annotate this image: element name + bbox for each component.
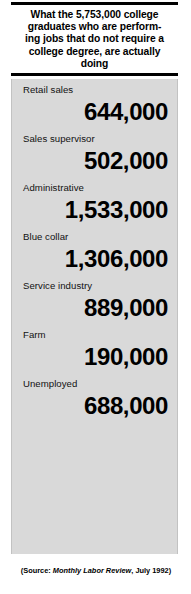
- table-row: Unemployed 688,000: [12, 378, 177, 427]
- row-value-farm: 190,000: [23, 341, 168, 378]
- headline-line-1: What the 5,753,000 college: [12, 9, 177, 21]
- table-row: Sales supervisor 502,000: [12, 133, 177, 182]
- table-row: Farm 190,000: [12, 329, 177, 378]
- row-value-blue-collar: 1,306,000: [23, 243, 168, 280]
- page-title: What the 5,753,000 college graduates who…: [11, 5, 178, 73]
- headline-line-5: doing: [12, 58, 177, 70]
- row-value-administrative: 1,533,000: [23, 194, 168, 231]
- headline-line-3: ing jobs that do not require a: [12, 33, 177, 45]
- source-prefix: (Source:: [21, 566, 53, 575]
- header-block: What the 5,753,000 college graduates who…: [11, 2, 178, 76]
- row-label-blue-collar: Blue collar: [23, 231, 168, 243]
- row-value-retail-sales: 644,000: [23, 96, 168, 133]
- source-publication: Monthly Labor Review: [53, 566, 131, 575]
- row-value-sales-supervisor: 502,000: [23, 145, 168, 182]
- infographic-root: What the 5,753,000 college graduates who…: [0, 0, 191, 594]
- row-label-unemployed: Unemployed: [23, 378, 168, 390]
- row-label-service-industry: Service industry: [23, 280, 168, 292]
- headline-line-4: college degree, are actually: [12, 46, 177, 58]
- source-note: (Source: Monthly Labor Review, July 1992…: [11, 566, 181, 575]
- row-label-farm: Farm: [23, 329, 168, 341]
- row-label-retail-sales: Retail sales: [23, 84, 168, 96]
- row-label-sales-supervisor: Sales supervisor: [23, 133, 168, 145]
- source-suffix: , July 1992): [131, 566, 171, 575]
- row-value-unemployed: 688,000: [23, 390, 168, 427]
- data-row-list: Retail sales 644,000 Sales supervisor 50…: [12, 79, 177, 427]
- row-label-administrative: Administrative: [23, 182, 168, 194]
- headline-line-2: graduates who are perform-: [12, 21, 177, 33]
- table-row: Service industry 889,000: [12, 280, 177, 329]
- header-bottom-rule: [11, 73, 178, 76]
- row-value-service-industry: 889,000: [23, 292, 168, 329]
- table-row: Retail sales 644,000: [12, 84, 177, 133]
- data-panel: Retail sales 644,000 Sales supervisor 50…: [11, 79, 178, 554]
- table-row: Blue collar 1,306,000: [12, 231, 177, 280]
- table-row: Administrative 1,533,000: [12, 182, 177, 231]
